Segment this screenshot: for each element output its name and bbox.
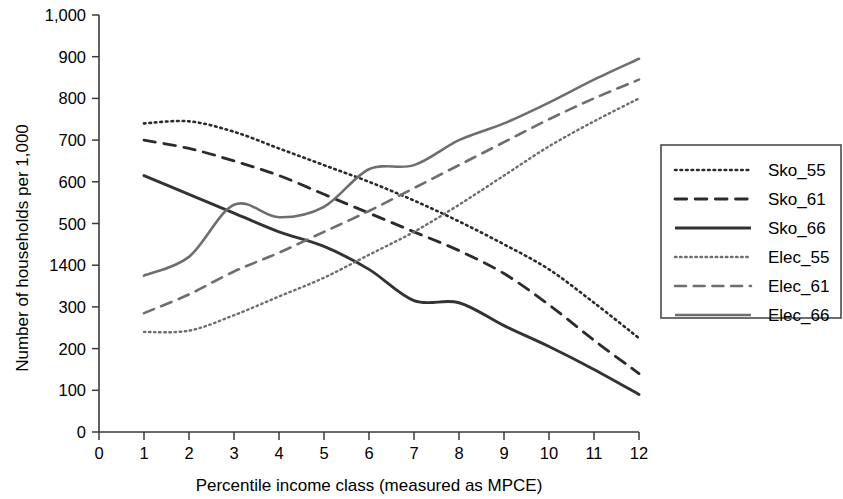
series-line-elec_55 (144, 98, 639, 332)
y-axis: 010020030014005006007008009001,000 (45, 6, 99, 441)
x-tick-label: 10 (540, 444, 558, 462)
y-tick-label: 0 (77, 423, 86, 441)
y-tick-label: 1400 (49, 256, 86, 274)
y-tick-label: 200 (58, 340, 86, 358)
x-axis-label: Percentile income class (measured as MPC… (196, 476, 543, 495)
x-tick-label: 7 (409, 444, 418, 462)
x-tick-label: 9 (499, 444, 508, 462)
legend-label-sko_61: Sko_61 (768, 190, 826, 209)
series-line-sko_66 (144, 176, 639, 395)
x-axis: 0123456789101112 (94, 432, 648, 462)
x-tick-label: 5 (319, 444, 328, 462)
y-tick-label: 1,000 (45, 6, 86, 24)
y-axis-tick-labels: 010020030014005006007008009001,000 (45, 6, 86, 441)
x-axis-ticks (99, 432, 639, 440)
x-tick-label: 3 (229, 444, 238, 462)
series-line-sko_61 (144, 140, 639, 374)
chart-figure: 010020030014005006007008009001,000 01234… (0, 0, 843, 499)
y-axis-ticks (92, 15, 99, 432)
chart-legend: Sko_55Sko_61Sko_66Elec_55Elec_61Elec_66 (661, 145, 841, 325)
y-tick-label: 500 (58, 215, 86, 233)
legend-label-elec_61: Elec_61 (768, 277, 829, 296)
x-tick-label: 6 (364, 444, 373, 462)
x-axis-tick-labels: 0123456789101112 (94, 444, 648, 462)
legend-label-elec_66: Elec_66 (768, 306, 829, 325)
y-tick-label: 600 (58, 173, 86, 191)
y-tick-label: 700 (58, 131, 86, 149)
x-tick-label: 2 (184, 444, 193, 462)
y-tick-label: 300 (58, 298, 86, 316)
legend-label-sko_55: Sko_55 (768, 161, 826, 180)
x-tick-label: 11 (585, 444, 602, 462)
series-line-sko_55 (144, 121, 639, 338)
x-tick-label: 4 (274, 444, 283, 462)
x-tick-label: 8 (454, 444, 463, 462)
x-tick-label: 12 (630, 444, 648, 462)
legend-label-sko_66: Sko_66 (768, 219, 826, 238)
chart-series-group (144, 59, 639, 395)
y-tick-label: 100 (58, 381, 86, 399)
y-axis-label: Number of households per 1,000 (13, 124, 32, 372)
series-line-elec_61 (144, 80, 639, 314)
legend-label-elec_55: Elec_55 (768, 248, 829, 267)
y-tick-label: 800 (58, 89, 86, 107)
x-tick-label: 1 (139, 444, 148, 462)
x-tick-label: 0 (94, 444, 103, 462)
y-tick-label: 900 (58, 48, 86, 66)
line-chart: 010020030014005006007008009001,000 01234… (0, 0, 843, 499)
